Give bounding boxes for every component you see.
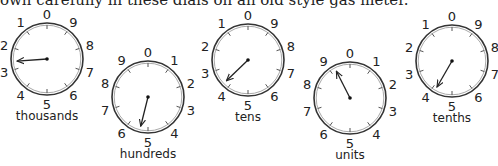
dial-number: 0 <box>43 7 51 22</box>
dial-number: 4 <box>217 89 225 104</box>
gas-meter-dials: 0123456789thousands0123456789hundreds012… <box>0 0 498 166</box>
dial-number: 7 <box>101 103 109 118</box>
dial-number: 9 <box>270 16 278 31</box>
dial-number: 3 <box>201 66 209 81</box>
dial-number: 2 <box>389 77 397 92</box>
dial-pivot <box>246 58 250 62</box>
dial-number: 2 <box>405 40 413 55</box>
dial-number: 1 <box>170 53 178 68</box>
dial-number: 7 <box>86 65 94 80</box>
dial-number: 6 <box>270 89 278 104</box>
dial-tens: 0123456789tens <box>201 8 295 125</box>
dial-label: tens <box>235 110 261 124</box>
dial-pivot <box>348 96 352 100</box>
dial-number: 8 <box>287 39 295 54</box>
dial-number: 6 <box>319 127 327 142</box>
dial-number: 8 <box>101 76 109 91</box>
dial-number: 3 <box>187 103 195 118</box>
dial-number: 4 <box>16 88 24 103</box>
dial-number: 0 <box>144 45 152 60</box>
dial-number: 4 <box>170 126 178 141</box>
dial-number: 4 <box>421 90 429 105</box>
dial-tenths: 0123456789tenths <box>405 9 498 126</box>
dial-hundreds: 0123456789hundreds <box>101 45 195 162</box>
dial-number: 1 <box>217 16 225 31</box>
dial-number: 1 <box>16 15 24 30</box>
dial-number: 7 <box>491 67 498 82</box>
dial-number: 1 <box>372 54 380 69</box>
dial-number: 8 <box>86 38 94 53</box>
dial-pivot <box>45 57 49 61</box>
dial-pivot <box>450 59 454 63</box>
dial-number: 9 <box>474 17 482 32</box>
dial-number: 2 <box>0 38 8 53</box>
dial-number: 3 <box>389 104 397 119</box>
dial-number: 0 <box>346 46 354 61</box>
dial-number: 0 <box>448 9 456 24</box>
dial-number: 2 <box>187 76 195 91</box>
dial-number: 4 <box>372 127 380 142</box>
dial-number: 6 <box>69 88 77 103</box>
dial-number: 6 <box>117 126 125 141</box>
dial-number: 7 <box>303 104 311 119</box>
dial-label: tenths <box>433 111 471 125</box>
dial-number: 9 <box>69 15 77 30</box>
dial-units: 0123456789units <box>303 46 397 163</box>
dial-number: 7 <box>287 66 295 81</box>
dial-pivot <box>146 95 150 99</box>
dial-number: 6 <box>474 90 482 105</box>
dial-number: 9 <box>117 53 125 68</box>
dial-number: 2 <box>201 39 209 54</box>
dial-label: units <box>335 148 365 162</box>
dial-label: hundreds <box>120 147 176 161</box>
dial-number: 3 <box>405 67 413 82</box>
dial-number: 9 <box>319 54 327 69</box>
dial-label: thousands <box>16 109 78 123</box>
dial-number: 8 <box>303 77 311 92</box>
dial-number: 1 <box>421 17 429 32</box>
dial-number: 0 <box>244 8 252 23</box>
dial-number: 3 <box>0 65 8 80</box>
dial-number: 8 <box>491 40 498 55</box>
dial-thousands: 0123456789thousands <box>0 7 94 124</box>
